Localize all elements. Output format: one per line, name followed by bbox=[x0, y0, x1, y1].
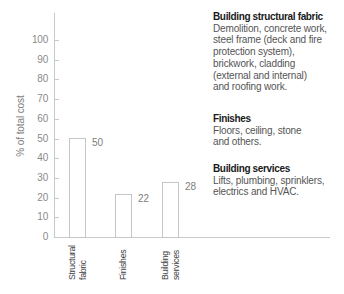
y-tick-label: 30 bbox=[18, 172, 48, 184]
x-axis-line bbox=[54, 237, 330, 238]
y-tick-label: 20 bbox=[18, 192, 48, 204]
x-category-label-line: Finishes bbox=[118, 234, 129, 280]
y-tick-label: 0 bbox=[18, 231, 48, 243]
y-tick bbox=[55, 217, 59, 218]
x-category-label: Buildingservices bbox=[160, 234, 181, 280]
y-tick-label: 80 bbox=[18, 73, 48, 85]
y-tick-label: 10 bbox=[18, 211, 48, 223]
bar-chart-figure: 0102030405060708090100% of total cost502… bbox=[0, 0, 344, 294]
bar bbox=[162, 182, 179, 238]
y-tick bbox=[55, 40, 59, 41]
x-category-label: Finishes bbox=[118, 234, 129, 280]
y-tick bbox=[55, 178, 59, 179]
annotation-line: Floors, ceiling, stone bbox=[213, 125, 343, 137]
y-tick bbox=[55, 198, 59, 199]
bar-value-label: 22 bbox=[138, 193, 149, 205]
y-tick bbox=[55, 99, 59, 100]
y-axis-line bbox=[54, 13, 55, 238]
annotation-heading: Building services bbox=[213, 163, 343, 175]
annotation-block: Building structural fabricDemolition, co… bbox=[213, 11, 343, 93]
bar bbox=[69, 138, 86, 238]
annotation-column: Building structural fabricDemolition, co… bbox=[213, 11, 343, 198]
y-axis-title: % of total cost bbox=[15, 95, 26, 156]
bar-value-label: 50 bbox=[92, 137, 103, 149]
y-tick-label: 90 bbox=[18, 54, 48, 66]
annotation-heading: Building structural fabric bbox=[213, 11, 343, 23]
annotation-heading: Finishes bbox=[213, 113, 343, 125]
annotation-block: FinishesFloors, ceiling, stoneand others… bbox=[213, 113, 343, 148]
annotation-line: protection system), bbox=[213, 46, 343, 58]
x-category-label-line: fabric bbox=[78, 234, 89, 280]
y-tick bbox=[55, 79, 59, 80]
x-category-label-line: Building bbox=[160, 234, 171, 280]
annotation-line: and roofing work. bbox=[213, 81, 343, 93]
annotation-line: Demolition, concrete work, bbox=[213, 23, 343, 35]
annotation-line: and others. bbox=[213, 136, 343, 148]
bar-value-label: 28 bbox=[185, 181, 196, 193]
x-category-label: Structuralfabric bbox=[67, 234, 88, 280]
bar bbox=[115, 194, 132, 238]
annotation-line: brickwork, cladding bbox=[213, 58, 343, 70]
annotation-line: steel frame (deck and fire bbox=[213, 34, 343, 46]
annotation-line: Lifts, plumbing, sprinklers, bbox=[213, 175, 343, 187]
y-tick bbox=[55, 60, 59, 61]
y-tick-label: 100 bbox=[18, 34, 48, 46]
y-tick bbox=[55, 139, 59, 140]
y-tick bbox=[55, 158, 59, 159]
y-tick bbox=[55, 237, 59, 238]
x-category-label-line: Structural bbox=[67, 234, 78, 280]
annotation-line: (external and internal) bbox=[213, 70, 343, 82]
annotation-block: Building servicesLifts, plumbing, sprink… bbox=[213, 163, 343, 198]
annotation-line: electrics and HVAC. bbox=[213, 186, 343, 198]
x-category-label-line: services bbox=[171, 234, 182, 280]
y-tick bbox=[55, 119, 59, 120]
